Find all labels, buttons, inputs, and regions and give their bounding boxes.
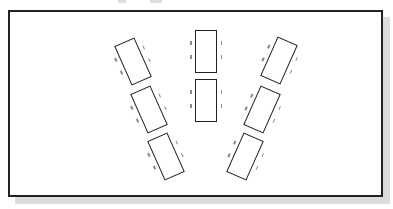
desk-rectangle: [195, 79, 217, 122]
chair-mark-icon: [190, 90, 192, 94]
chair-mark-icon: [190, 104, 192, 108]
chair-mark-icon: [190, 55, 192, 59]
desk-rectangle: [195, 30, 217, 73]
desk-center-2: [195, 79, 217, 122]
clipped-caption-fragment: [150, 0, 162, 3]
clipped-caption-fragment: [118, 0, 126, 3]
chair-mark-icon: [221, 90, 223, 94]
chair-mark-icon: [221, 55, 223, 59]
chair-mark-icon: [221, 104, 223, 108]
chair-mark-icon: [190, 41, 192, 45]
desk-center-1: [195, 30, 217, 73]
chair-mark-icon: [221, 41, 223, 45]
